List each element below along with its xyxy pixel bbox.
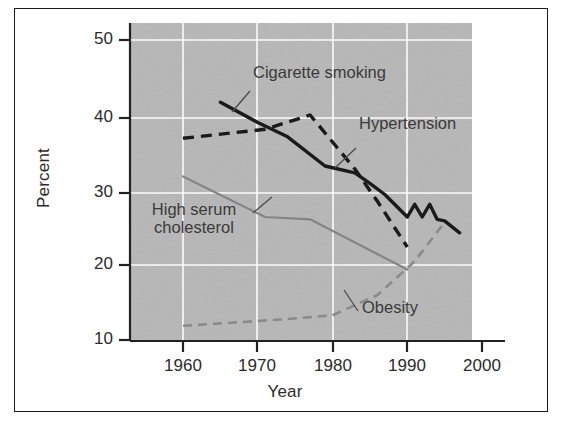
y-tick-label-30: 30 [73, 182, 113, 202]
label-cigarette-smoking: Cigarette smoking [253, 64, 386, 82]
x-tick-label-1960: 1960 [153, 356, 213, 376]
figure-container: Percent Year 50 40 30 20 10 1960 1970 19… [0, 0, 564, 428]
x-tick-label-1970: 1970 [227, 356, 287, 376]
label-high-serum-cholesterol: High serum cholesterol [135, 201, 253, 237]
y-axis-title: Percent [34, 118, 54, 238]
x-tick-label-2000: 2000 [452, 356, 512, 376]
label-hypertension: Hypertension [359, 115, 456, 133]
x-tick-label-1980: 1980 [303, 356, 363, 376]
y-tick-label-40: 40 [73, 107, 113, 127]
y-tick-label-50: 50 [73, 29, 113, 49]
y-tick-label-10: 10 [73, 329, 113, 349]
x-tick-label-1990: 1990 [377, 356, 437, 376]
x-tick-marks [183, 341, 482, 352]
y-tick-label-20: 20 [73, 254, 113, 274]
y-tick-marks [119, 40, 130, 340]
x-axis-title: Year [267, 382, 302, 402]
label-obesity: Obesity [362, 299, 418, 317]
